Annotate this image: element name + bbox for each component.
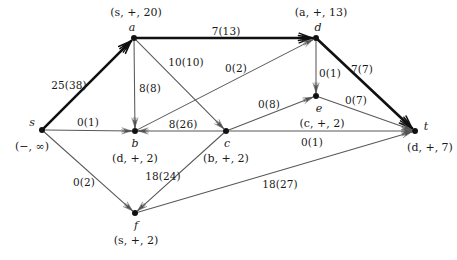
node-f (132, 210, 138, 216)
flow-network-diagram: 25(38)7(13)7(7)8(8)10(10)0(2)0(1)0(1)8(2… (0, 0, 457, 260)
edge-label-a-d: 7(13) (212, 26, 241, 37)
edge-label-s-f: 0(2) (73, 177, 95, 188)
edge-label-f-t: 18(27) (262, 179, 298, 190)
node-name-f: f (134, 220, 138, 231)
edge-label-c-f: 18(24) (145, 171, 181, 182)
node-a (131, 35, 137, 41)
edge-label-a-c: 10(10) (168, 57, 204, 68)
node-label-e: (c, +, 2) (300, 118, 345, 129)
node-label-c: (b, +, 2) (203, 153, 249, 164)
edges-layer (44, 33, 412, 212)
node-label-d: (a, +, 13) (295, 7, 347, 18)
node-name-e: e (316, 103, 323, 114)
edge-b-d (138, 40, 313, 130)
node-t (412, 128, 418, 134)
node-label-s: (−, ∞) (15, 141, 49, 152)
edge-label-c-b: 8(26) (169, 119, 198, 130)
edge-label-b-d: 0(2) (225, 63, 247, 74)
graph-canvas (0, 0, 457, 260)
edge-label-s-b: 0(1) (77, 117, 99, 128)
node-name-b: b (131, 138, 138, 149)
node-name-s: s (29, 117, 35, 128)
node-c (223, 128, 229, 134)
edge-label-d-e: 0(1) (319, 68, 341, 79)
node-name-d: d (314, 22, 321, 33)
edge-s-b (45, 128, 131, 134)
node-s (39, 127, 45, 133)
edge-s-f (44, 132, 132, 211)
edge-label-s-a: 25(38) (51, 80, 87, 91)
edge-label-c-t: 0(1) (301, 137, 323, 148)
node-label-b: (d, +, 2) (112, 153, 158, 164)
node-b (132, 128, 138, 134)
node-e (313, 93, 319, 99)
node-label-f: (s, +, 2) (114, 235, 158, 246)
node-d (313, 35, 319, 41)
node-label-t: (d, +, 7) (407, 142, 453, 153)
edge-label-e-t: 0(7) (345, 95, 367, 106)
node-name-c: c (224, 138, 230, 149)
edge-a-b (132, 41, 138, 127)
node-name-t: t (424, 121, 428, 132)
edge-label-d-t: 7(7) (351, 64, 373, 75)
node-label-a: (s, +, 20) (110, 7, 161, 18)
arrowhead-b-d (303, 40, 313, 47)
edge-label-c-e: 0(8) (258, 99, 280, 110)
edge-d-t (318, 40, 412, 128)
node-name-a: a (129, 22, 136, 33)
edge-label-a-b: 8(8) (139, 83, 161, 94)
